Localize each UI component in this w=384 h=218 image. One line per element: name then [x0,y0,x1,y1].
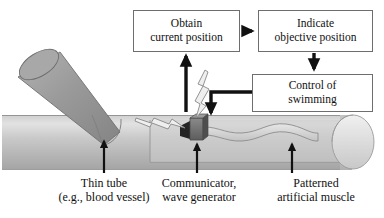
flow-box-obtain-line2: current position [150,31,223,45]
callout-label-communicator-line2: wave generator [140,190,258,204]
flow-box-control-of-swimming[interactable]: Control of swimming [252,74,373,112]
callout-label-artificial-muscle: Patterned artificial muscle [252,176,380,205]
callout-label-artificial-muscle-line1: Patterned [252,176,380,190]
figure-canvas: Obtain current position Indicate objecti… [0,0,384,218]
flow-box-control-line2: swimming [288,93,337,107]
flow-box-indicate-objective-position[interactable]: Indicate objective position [258,10,373,52]
flow-box-indicate-line1: Indicate [274,17,356,31]
flow-box-obtain-line1: Obtain [150,17,223,31]
emitted-wave-upper [195,70,209,118]
callout-label-artificial-muscle-line2: artificial muscle [252,190,380,204]
flow-box-obtain-current-position[interactable]: Obtain current position [133,10,240,52]
flow-box-control-line1: Control of [288,79,337,93]
tube-end-cap [332,115,374,170]
flow-box-indicate-line2: objective position [274,31,356,45]
callout-label-communicator: Communicator, wave generator [140,176,258,205]
arrow-control-to-robot [211,92,252,113]
callout-label-communicator-line1: Communicator, [140,176,258,190]
